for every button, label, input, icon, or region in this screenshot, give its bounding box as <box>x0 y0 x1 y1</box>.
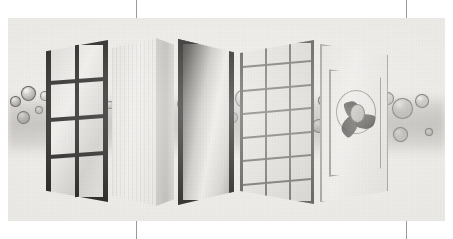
glazing-frame <box>178 39 234 205</box>
crop-mark-bottom-left <box>136 221 137 239</box>
crop-mark-top-right <box>406 0 407 18</box>
crop-mark-top-left <box>136 0 137 18</box>
crop-mark-bottom-right <box>406 221 407 239</box>
particle <box>392 98 413 119</box>
layer-solid-slab-panel <box>112 38 174 206</box>
particle <box>425 128 433 136</box>
layer-louvred-vent-panel <box>320 44 388 202</box>
mesh-outline <box>240 40 314 204</box>
layer-mullioned-window-frame <box>46 40 108 202</box>
layer-dark-framed-glazing <box>178 39 234 205</box>
particle <box>21 86 36 101</box>
particle <box>17 111 30 124</box>
slab-face-texture <box>112 38 158 206</box>
particle <box>415 94 429 108</box>
particle <box>10 96 21 107</box>
particle <box>35 106 43 114</box>
vent-outline <box>320 44 388 202</box>
layer-fine-mesh-screen <box>240 40 314 204</box>
figure-plate <box>8 18 445 221</box>
particle <box>393 127 408 142</box>
slab-edge <box>156 38 174 206</box>
window-frame-outline <box>46 40 108 202</box>
